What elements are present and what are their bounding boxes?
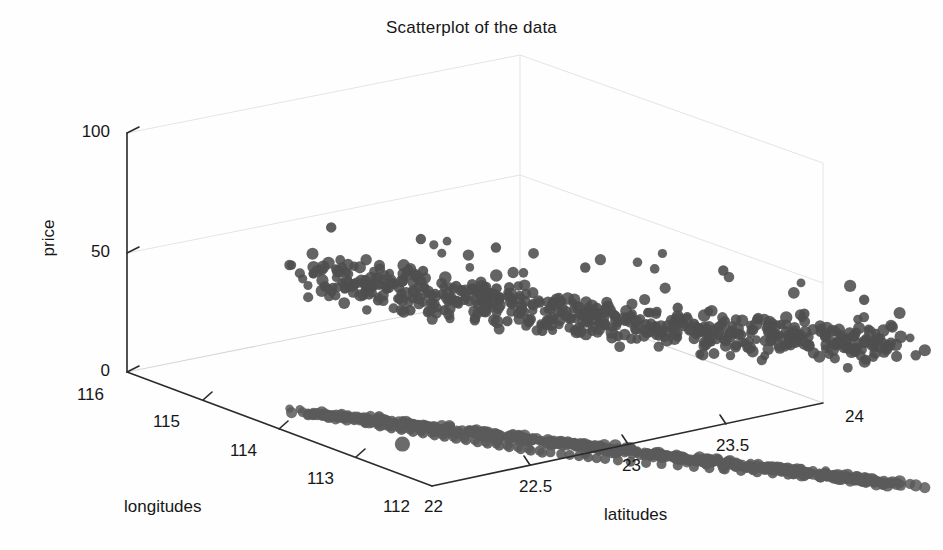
x-tick-115: 115 — [128, 412, 180, 432]
scatterplot-figure: Scatterplot of the data — [0, 0, 943, 550]
y-tick-22-5: 22.5 — [519, 477, 581, 497]
x-tick-116: 116 — [52, 385, 104, 405]
y-tick-23: 23 — [622, 456, 662, 476]
y-tick-23-5: 23.5 — [716, 436, 778, 456]
x-tick-114: 114 — [205, 441, 257, 461]
z-tick-100: 100 — [62, 122, 110, 142]
z-axis-title: price — [39, 183, 59, 293]
y-tick-22: 22 — [424, 497, 464, 517]
y-axis-title: latitudes — [604, 505, 667, 525]
x-tick-113: 113 — [282, 469, 334, 489]
z-tick-50: 50 — [62, 242, 110, 262]
plot-canvas — [0, 0, 943, 550]
price-point-cloud — [284, 222, 931, 372]
z-tick-0: 0 — [62, 361, 110, 381]
y-tick-24: 24 — [845, 407, 885, 427]
x-tick-112: 112 — [358, 497, 410, 517]
x-axis-title: longitudes — [124, 497, 202, 517]
